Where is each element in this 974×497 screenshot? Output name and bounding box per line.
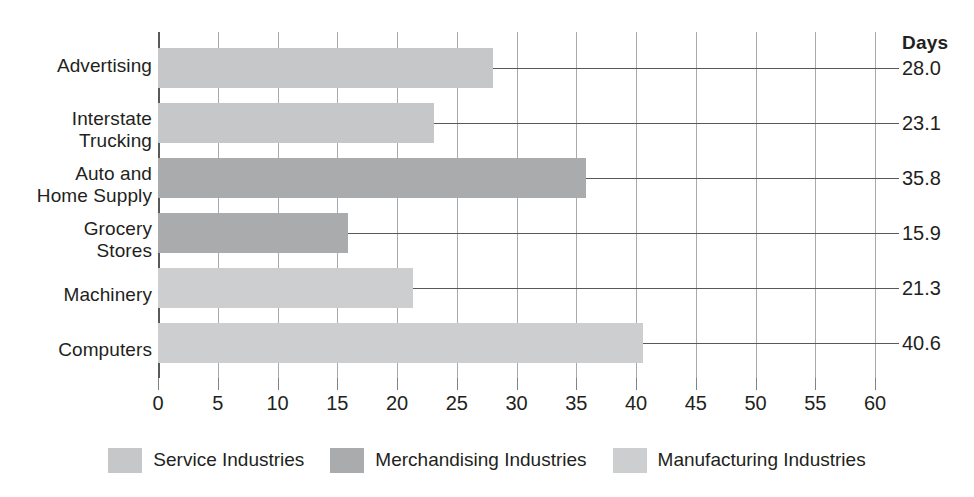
xtick-30 [517,378,518,390]
xtick-label-25: 25 [446,392,468,414]
leader-line-advertising [493,68,899,69]
days-column-header: Days [902,32,948,54]
xtick-label-40: 40 [625,392,647,414]
xtick-label-45: 45 [685,392,707,414]
bar-interstate-trucking [158,103,434,143]
leader-line-auto-and-home-supply [586,178,899,179]
legend-swatch-manufacturing-industries [613,448,647,473]
value-label-interstate-trucking: 23.1 [902,112,941,134]
xtick-label-50: 50 [744,392,766,414]
leader-line-interstate-trucking [434,123,899,124]
leader-line-machinery [413,288,899,289]
xtick-35 [576,378,577,390]
category-label-auto-and-home-supply: Auto and Home Supply [37,163,152,207]
xtick-label-35: 35 [565,392,587,414]
category-label-advertising: Advertising [57,55,152,77]
xtick-40 [636,378,637,390]
xtick-label-20: 20 [386,392,408,414]
xtick-label-5: 5 [212,392,223,414]
bar-advertising [158,48,493,88]
plot-area [158,32,875,378]
legend-label-manufacturing-industries: Manufacturing Industries [658,449,866,471]
gridline-50 [756,32,757,378]
gridline-60 [875,32,876,378]
xtick-5 [218,378,219,390]
legend-item-manufacturing-industries: Manufacturing Industries [613,448,866,473]
xtick-label-15: 15 [326,392,348,414]
legend-item-service-industries: Service Industries [108,448,304,473]
gridline-55 [815,32,816,378]
value-label-machinery: 21.3 [902,277,941,299]
chart-legend: Service Industries Merchandising Industr… [0,440,974,480]
value-label-grocery-stores: 15.9 [902,222,941,244]
xtick-60 [875,378,876,390]
leader-line-computers [643,343,899,344]
gridline-45 [696,32,697,378]
value-label-auto-and-home-supply: 35.8 [902,167,941,189]
xtick-10 [278,378,279,390]
legend-label-merchandising-industries: Merchandising Industries [375,449,586,471]
legend-item-merchandising-industries: Merchandising Industries [330,448,586,473]
legend-label-service-industries: Service Industries [153,449,304,471]
xtick-0 [158,378,159,390]
category-label-grocery-stores: Grocery Stores [84,218,152,262]
xtick-50 [756,378,757,390]
value-label-computers: 40.6 [902,332,941,354]
legend-swatch-service-industries [108,448,142,473]
bar-grocery-stores [158,213,348,253]
xtick-20 [397,378,398,390]
value-label-advertising: 28.0 [902,57,941,79]
xtick-label-30: 30 [505,392,527,414]
category-label-interstate-trucking: Interstate Trucking [72,108,152,152]
xtick-45 [696,378,697,390]
bar-machinery [158,268,413,308]
xtick-15 [337,378,338,390]
category-label-machinery: Machinery [63,284,152,306]
bar-computers [158,323,643,363]
xtick-label-55: 55 [804,392,826,414]
xtick-55 [815,378,816,390]
xtick-25 [457,378,458,390]
xtick-label-0: 0 [152,392,163,414]
bar-auto-and-home-supply [158,158,586,198]
xtick-label-60: 60 [864,392,886,414]
legend-swatch-merchandising-industries [330,448,364,473]
leader-line-grocery-stores [348,233,899,234]
category-label-computers: Computers [58,339,152,361]
xtick-label-10: 10 [266,392,288,414]
bar-chart: Advertising Interstate Trucking Auto and… [0,0,974,497]
